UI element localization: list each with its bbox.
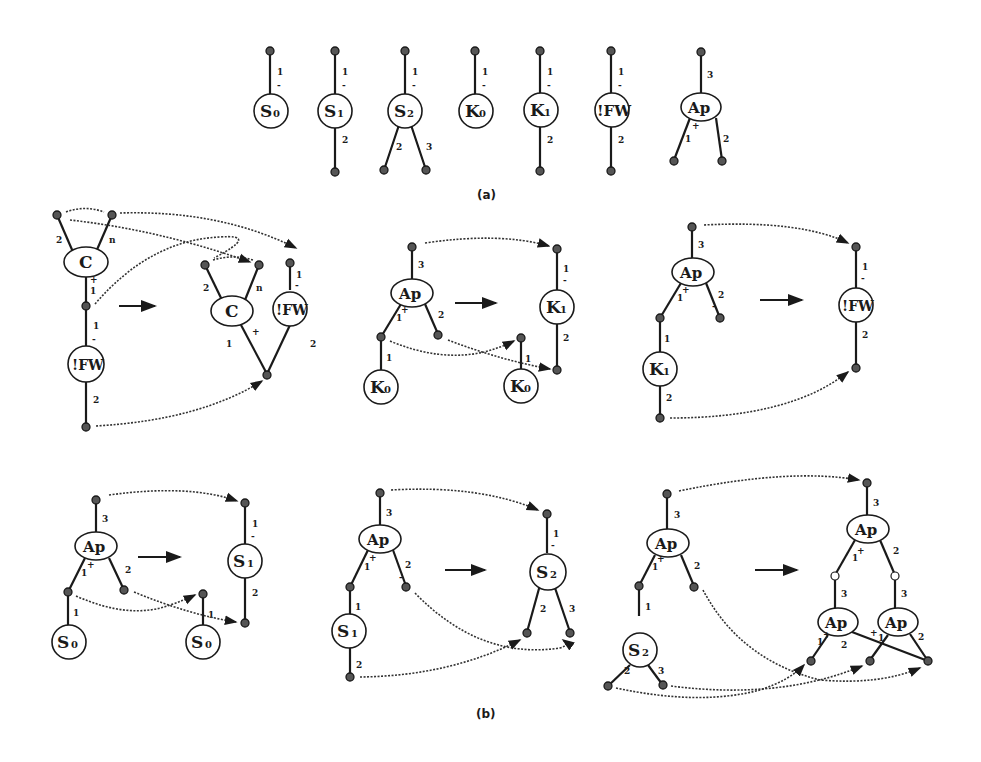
svg-text:-: -	[92, 334, 96, 344]
svg-text:2: 2	[841, 640, 847, 650]
svg-text:2: 2	[563, 333, 569, 343]
svg-text:+: +	[401, 305, 409, 315]
svg-text:2: 2	[125, 565, 131, 575]
svg-text:1: 1	[296, 270, 302, 280]
svg-text:1: 1	[412, 67, 418, 77]
svg-text:Ap: Ap	[82, 538, 105, 556]
svg-text:1: 1	[351, 628, 358, 639]
svg-text:3: 3	[841, 589, 847, 599]
svg-text:-: -	[551, 540, 555, 550]
svg-text:2: 2	[918, 632, 924, 642]
svg-text:1: 1	[277, 67, 283, 77]
svg-text:S: S	[191, 632, 203, 652]
svg-text:2: 2	[550, 569, 557, 580]
svg-text:3: 3	[426, 142, 432, 152]
agent-k1: K 1 1 - 2	[524, 47, 558, 175]
svg-text:1: 1	[663, 366, 670, 377]
svg-text:1: 1	[252, 519, 258, 529]
svg-text:0: 0	[273, 108, 280, 119]
svg-text:!FW: !FW	[842, 298, 874, 314]
svg-text:1: 1	[563, 264, 569, 274]
svg-text:2: 2	[718, 290, 724, 300]
svg-text:1: 1	[553, 529, 559, 539]
svg-text:+: +	[857, 546, 865, 556]
svg-text:1: 1	[355, 602, 361, 612]
svg-text:Ap: Ap	[854, 521, 877, 539]
svg-text:C: C	[79, 252, 93, 272]
svg-text:Ap: Ap	[687, 99, 710, 117]
svg-text:3: 3	[674, 510, 680, 520]
svg-text:2: 2	[356, 660, 362, 670]
svg-text:S: S	[233, 551, 245, 571]
svg-text:0: 0	[71, 639, 78, 650]
svg-text:2: 2	[547, 135, 553, 145]
svg-text:1: 1	[862, 262, 868, 272]
rule-c-fw: C !FW 2 n + 1 1 - 2 C !FW 2 n + 1 1 - 2	[53, 209, 316, 432]
svg-text:1: 1	[544, 107, 551, 118]
svg-text:+: +	[90, 275, 98, 285]
svg-text:+: +	[682, 285, 690, 295]
svg-text:2: 2	[694, 561, 700, 571]
svg-text:!FW: !FW	[72, 357, 104, 373]
svg-text:+: +	[870, 628, 878, 638]
svg-text:S: S	[57, 632, 69, 652]
svg-text:2: 2	[723, 134, 729, 144]
svg-text:C: C	[225, 301, 239, 321]
svg-text:!FW: !FW	[597, 102, 632, 120]
svg-text:1: 1	[73, 608, 79, 618]
svg-text:2: 2	[666, 393, 672, 403]
svg-text:+: +	[87, 560, 95, 570]
svg-text:Ap: Ap	[884, 614, 907, 632]
svg-text:-: -	[482, 80, 486, 90]
svg-text:n: n	[256, 283, 263, 293]
svg-text:!FW: !FW	[276, 302, 308, 318]
svg-text:-: -	[251, 531, 255, 541]
svg-text:1: 1	[618, 67, 624, 77]
svg-text:2: 2	[642, 647, 649, 658]
svg-text:3: 3	[901, 589, 907, 599]
svg-text:2: 2	[342, 135, 348, 145]
svg-text:1: 1	[93, 321, 99, 331]
svg-text:3: 3	[698, 240, 704, 250]
svg-text:+: +	[252, 327, 260, 337]
svg-text:2: 2	[624, 666, 630, 676]
svg-text:2: 2	[252, 588, 258, 598]
svg-text:+: +	[692, 121, 700, 131]
caption-b: (b)	[476, 707, 496, 721]
svg-text:2: 2	[405, 560, 411, 570]
svg-text:-: -	[277, 80, 281, 90]
svg-text:1: 1	[90, 286, 96, 296]
svg-text:1: 1	[247, 558, 254, 569]
svg-text:1: 1	[525, 354, 531, 364]
svg-text:+: +	[657, 554, 665, 564]
rule-ap-s1: Ap S 1 3 1 + 2 - 1 2 S 2 1 - 2 3	[332, 489, 575, 681]
svg-text:S: S	[394, 101, 406, 121]
svg-text:3: 3	[102, 514, 108, 524]
svg-text:1: 1	[547, 67, 553, 77]
svg-text:-: -	[295, 280, 299, 290]
svg-text:3: 3	[658, 666, 664, 676]
svg-text:2: 2	[396, 142, 402, 152]
svg-text:1: 1	[337, 108, 344, 119]
svg-text:-: -	[399, 572, 403, 582]
agent-s0: S 0 1 -	[254, 47, 288, 128]
svg-text:1: 1	[364, 562, 370, 572]
svg-text:-: -	[563, 275, 567, 285]
svg-text:S: S	[324, 101, 336, 121]
svg-text:3: 3	[707, 70, 713, 80]
svg-text:-: -	[861, 273, 865, 283]
svg-text:+: +	[369, 553, 377, 563]
rule-ap-k1: Ap K 1 3 1 + 2 - 1 2 !FW 1 - 2	[643, 223, 874, 422]
svg-text:-: -	[342, 80, 346, 90]
svg-text:-: -	[712, 301, 716, 311]
svg-text:0: 0	[524, 383, 531, 394]
svg-text:0: 0	[384, 384, 391, 395]
svg-text:Ap: Ap	[398, 285, 421, 303]
svg-text:2: 2	[93, 395, 99, 405]
rule-ap-k0: Ap K 0 3 1 + 2 1 K 1 1 - 2 K 0 1	[364, 238, 574, 404]
svg-text:3: 3	[569, 604, 575, 614]
svg-text:1: 1	[645, 602, 651, 612]
caption-a: (a)	[477, 188, 496, 202]
svg-text:0: 0	[479, 108, 486, 119]
agent-ap: Ap 3 + 1 2	[670, 48, 729, 165]
